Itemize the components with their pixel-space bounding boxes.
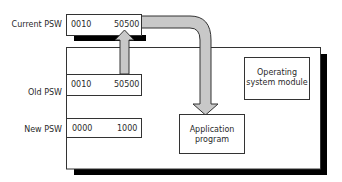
- os-module-label: Operating system module: [244, 68, 310, 87]
- new-psw-left-value: 0000: [72, 124, 92, 133]
- new-psw-label: New PSW: [0, 125, 62, 134]
- application-label-line1: Application: [179, 125, 245, 135]
- old-psw-right-value: 50500: [114, 80, 139, 89]
- old-psw-left-value: 0010: [71, 80, 91, 89]
- old-psw-label: Old PSW: [0, 88, 62, 97]
- current-psw-right-value: 50500: [114, 20, 139, 29]
- os-module-label-line1: Operating: [244, 68, 310, 78]
- memory-box-shadow: [74, 169, 327, 175]
- new-psw-right-value: 1000: [117, 124, 137, 133]
- current-psw-label: Current PSW: [0, 20, 62, 29]
- application-label-line2: program: [179, 135, 245, 145]
- os-module-label-line2: system module: [244, 78, 310, 88]
- current-psw-left-value: 0010: [71, 20, 91, 29]
- psw-diagram: Current PSW Old PSW New PSW 0010 50500 0…: [0, 0, 342, 182]
- memory-box-shadow-right: [321, 54, 327, 175]
- application-label: Application program: [179, 125, 245, 144]
